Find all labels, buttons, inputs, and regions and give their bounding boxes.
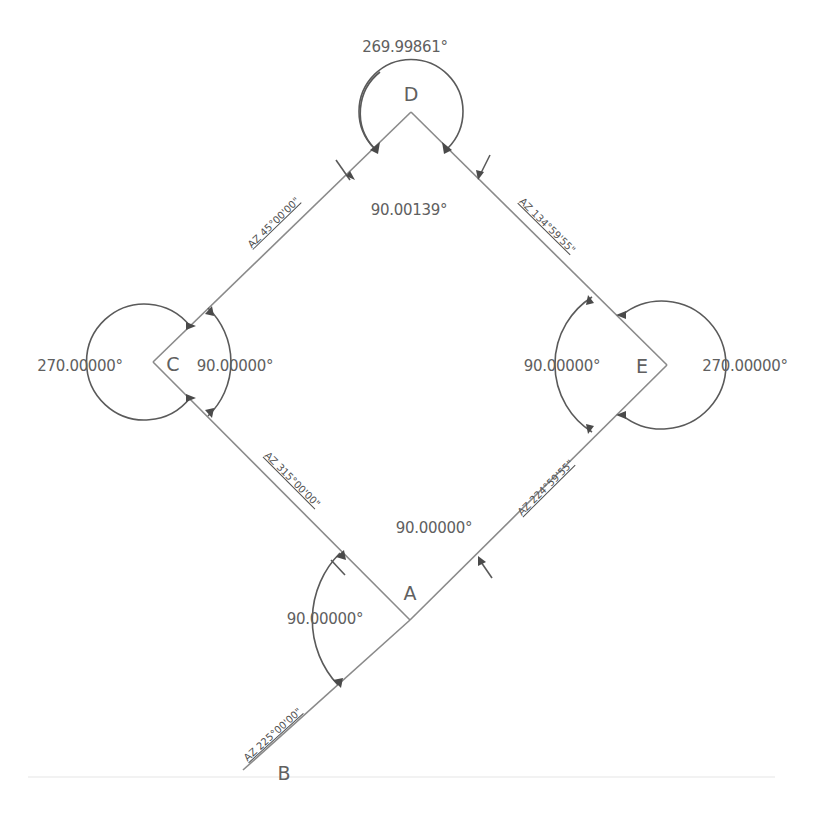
angle-C-interior: 90.00000° [197, 357, 273, 375]
vertex-label-C: C [166, 353, 179, 375]
vertex-label-A: A [404, 582, 417, 604]
line-A-B [243, 620, 410, 770]
azimuth-label-A-C: AZ 315°00'00" [263, 450, 323, 510]
angle-arc-D-exterior [359, 59, 463, 154]
vertex-label-B: B [277, 762, 290, 784]
angle-D-interior: 90.00139° [371, 201, 447, 219]
angle-A-deflection: 90.00000° [287, 610, 363, 628]
arrowhead [442, 142, 452, 154]
vertex-label-D: D [404, 83, 419, 105]
arrowhead [370, 142, 380, 154]
vertex-label-E: E [636, 355, 648, 377]
azimuth-label-C-D: AZ 45°00'00" [246, 195, 302, 250]
angle-arc-A-interior [478, 556, 492, 578]
line-A-C [153, 362, 410, 620]
angle-E-exterior: 270.00000° [702, 357, 788, 375]
azimuth-label-A-B: AZ 225°00'00" [242, 706, 304, 764]
traverse-diagram: D C E A B 269.99861° 90.00139° 270.00000… [0, 0, 822, 827]
angle-E-interior: 90.00000° [524, 357, 600, 375]
angle-D-exterior: 269.99861° [362, 38, 448, 56]
azimuth-label-E-A: AZ 224°59'55" [515, 458, 575, 518]
angle-A-interior: 90.00000° [396, 519, 472, 537]
angle-C-exterior: 270.00000° [37, 357, 123, 375]
